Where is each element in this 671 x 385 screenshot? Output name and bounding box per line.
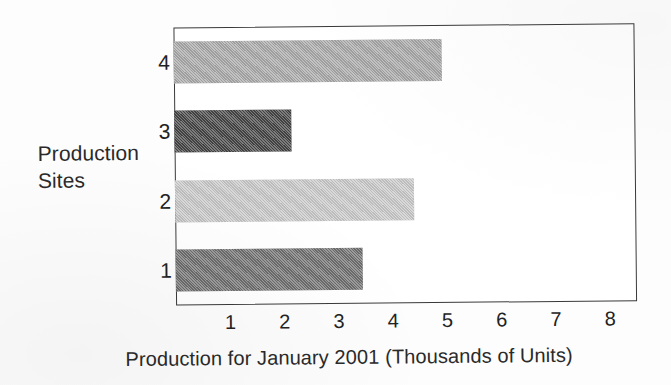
bar-site-4	[174, 39, 443, 84]
y-axis-tick-label-4: 4	[142, 51, 170, 72]
scan-skew-layer: Production Sites 1234 12345678 Productio…	[0, 0, 671, 385]
x-axis-tick-label-3: 3	[324, 309, 354, 333]
x-axis-tick-label-7: 7	[541, 307, 571, 331]
x-axis-tick-label-6: 6	[487, 307, 517, 331]
x-axis-tick-label-2: 2	[270, 309, 300, 333]
y-axis-tick-label-2: 2	[143, 190, 171, 211]
x-axis-tick-label-5: 5	[432, 308, 462, 332]
x-axis-title: Production for January 2001 (Thousands o…	[2, 342, 671, 373]
x-axis-tick-label-1: 1	[215, 310, 245, 334]
bar-chart-figure: Production Sites 1234 12345678 Productio…	[0, 0, 671, 385]
bars-layer	[173, 23, 637, 305]
bar-site-2	[175, 178, 414, 222]
x-axis-tick-label-4: 4	[378, 308, 408, 332]
y-axis-tick-label-3: 3	[142, 121, 170, 142]
x-axis-tick-label-8: 8	[595, 306, 625, 330]
x-axis-tick-labels: 12345678	[176, 306, 637, 340]
bar-site-1	[176, 248, 364, 292]
bar-site-3	[174, 110, 291, 153]
y-axis-tick-label-1: 1	[144, 260, 172, 281]
y-axis-tick-labels: 1234	[141, 28, 172, 306]
